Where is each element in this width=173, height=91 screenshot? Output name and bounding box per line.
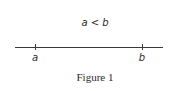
point-label-b: b (135, 52, 149, 63)
number-line (15, 47, 163, 48)
figure-canvas: a < b a b Figure 1 (0, 0, 173, 91)
inequality-label: a < b (0, 17, 173, 28)
point-label-a: a (28, 52, 42, 63)
tick-mark-a (35, 44, 36, 50)
tick-mark-b (142, 44, 143, 50)
figure-caption: Figure 1 (0, 71, 173, 83)
